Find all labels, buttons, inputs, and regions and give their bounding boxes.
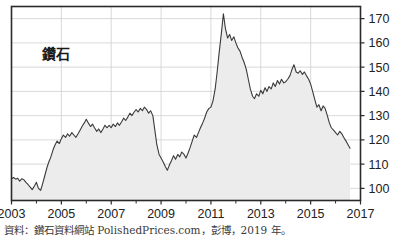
x-tick-label: 2017 (347, 207, 375, 221)
y-tick-label: 160 (369, 36, 390, 50)
x-tick-label: 2009 (147, 207, 175, 221)
y-tick-label: 150 (369, 61, 390, 75)
y-tick-label: 170 (369, 12, 390, 26)
y-tick-label: 130 (369, 109, 390, 123)
series-label: 鑽石 (42, 46, 70, 62)
x-tick-label: 2011 (197, 207, 224, 221)
y-tick-label: 140 (369, 85, 390, 99)
x-tick-label: 2007 (97, 207, 125, 221)
x-tick-label: 2005 (47, 207, 75, 221)
chart-canvas: 100110120130140150160170 200320052007200… (0, 0, 397, 243)
source-note: 資料：鑽石資料網站 PolishedPrices.com，彭博，2019 年。 (4, 222, 291, 237)
x-tick-label: 2013 (247, 207, 275, 221)
x-tick-label: 2015 (297, 207, 325, 221)
y-tick-label: 120 (369, 133, 390, 147)
y-tick-label: 110 (369, 158, 389, 172)
x-tick-label: 2003 (0, 207, 25, 221)
y-tick-label: 100 (369, 182, 390, 196)
diamond-price-chart: 100110120130140150160170 200320052007200… (0, 0, 397, 243)
